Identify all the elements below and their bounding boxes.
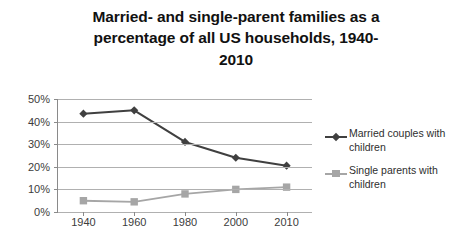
chart-title: Married- and single-parent families as a… xyxy=(30,6,442,70)
gridline xyxy=(58,189,312,190)
legend-marker-diamond-icon xyxy=(325,132,347,141)
y-tick-mark xyxy=(54,189,58,190)
series-married xyxy=(79,106,290,170)
data-point-marker xyxy=(80,197,87,204)
x-axis-tick-label: 1980 xyxy=(160,216,210,228)
chart-figure: Married- and single-parent families as a… xyxy=(0,0,472,249)
series-plot xyxy=(58,99,312,212)
x-axis-tick-label: 2010 xyxy=(262,216,312,228)
legend-label-single-line1: Single parents with xyxy=(349,164,467,178)
gridline xyxy=(58,99,312,100)
series-single xyxy=(80,183,291,205)
legend-item-married[interactable]: Married couples with children xyxy=(325,127,467,155)
y-tick-mark xyxy=(54,144,58,145)
y-axis-tick-label: 30% xyxy=(6,138,50,150)
data-point-marker xyxy=(79,110,87,118)
chart-legend: Married couples with children Single par… xyxy=(325,127,467,200)
legend-marker-square-icon xyxy=(325,169,347,178)
data-point-marker xyxy=(232,154,240,162)
chart-title-line-3: 2010 xyxy=(30,49,442,70)
chart-title-line-1: Married- and single-parent families as a xyxy=(30,6,442,27)
x-axis-tick-label: 2000 xyxy=(211,216,261,228)
y-tick-mark xyxy=(54,99,58,100)
gridline xyxy=(58,122,312,123)
chart-title-line-2: percentage of all US households, 1940- xyxy=(30,27,442,48)
y-axis-tick-label: 20% xyxy=(6,161,50,173)
y-axis-tick-label: 40% xyxy=(6,116,50,128)
y-tick-mark xyxy=(54,122,58,123)
data-point-marker xyxy=(283,162,291,170)
plot-area xyxy=(58,99,312,212)
y-axis-tick-label: 10% xyxy=(6,183,50,195)
x-axis-tick-label: 1940 xyxy=(58,216,108,228)
gridline xyxy=(58,167,312,168)
legend-label-married-line1: Married couples with xyxy=(349,127,467,141)
legend-label-single-line2: children xyxy=(349,178,467,192)
y-axis-tick-label: 0% xyxy=(6,206,50,218)
y-axis-tick-label: 50% xyxy=(6,93,50,105)
data-point-marker xyxy=(181,190,188,197)
legend-item-single[interactable]: Single parents with children xyxy=(325,164,467,192)
x-axis-tick-label: 1960 xyxy=(109,216,159,228)
y-tick-mark xyxy=(54,212,58,213)
x-axis-labels: 19401960198020002010 xyxy=(58,216,312,236)
y-tick-mark xyxy=(54,167,58,168)
legend-label-married-line2: children xyxy=(349,141,467,155)
gridline xyxy=(58,144,312,145)
data-point-marker xyxy=(131,198,138,205)
